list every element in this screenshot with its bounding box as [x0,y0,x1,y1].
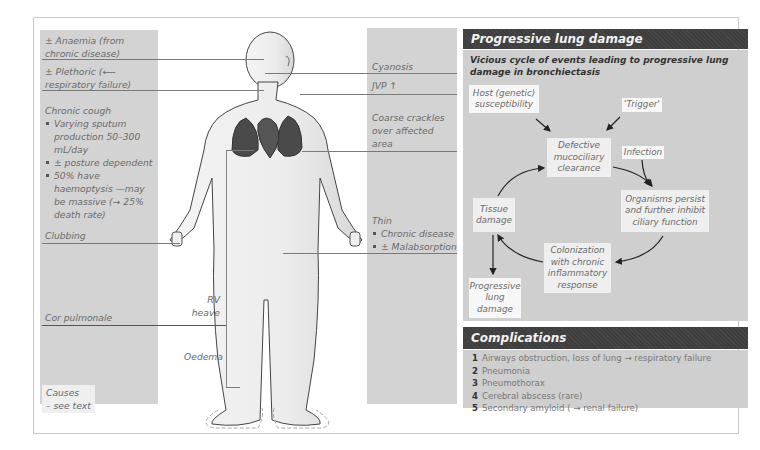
arrow-defective-to-organisms [613,167,652,186]
arrow-host-to-defective [536,119,550,131]
complications-list: 1Airways obstruction, loss of lung → res… [472,352,752,415]
complication-item: 4Cerebral abscess (rare) [472,390,752,403]
arrow-trigger-to-defective [607,117,620,130]
arrow-colonization-to-tissue [498,235,543,262]
arrow-infection-to-organisms [642,160,650,185]
complication-item: 5Secondary amyloid ( → renal failure) [472,402,752,415]
arrow-tissue-to-defective [498,168,544,196]
complication-item: 1Airways obstruction, loss of lung → res… [472,352,752,365]
arrow-organisms-to-colonization [616,236,663,262]
complication-item: 2Pneumonia [472,365,752,378]
complications-header: Complications [463,327,748,349]
complication-item: 3Pneumothorax [472,377,752,390]
